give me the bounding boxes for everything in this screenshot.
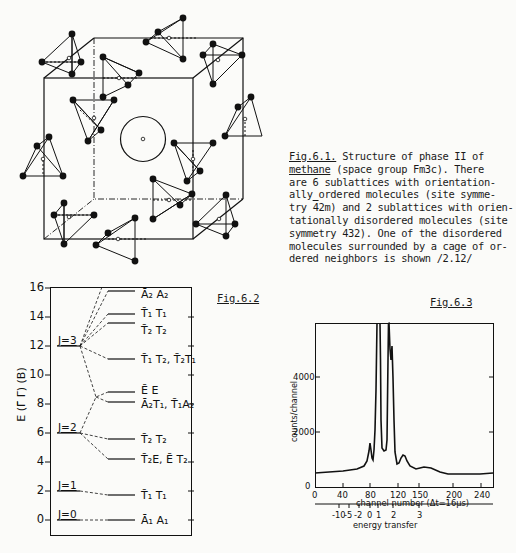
tetrahedron-6 — [23, 137, 63, 176]
spectrum-curve — [315, 323, 493, 474]
tetrahedron-12 — [196, 195, 235, 236]
fig63-energy-axis-label: energy transfer — [353, 520, 417, 530]
tetrahedron-5 — [73, 100, 114, 141]
tetrahedron-4 — [103, 57, 139, 97]
tetrahedron-10 — [54, 203, 94, 244]
fig63-ylabel: counts/channel — [290, 372, 299, 452]
hydrogen-atoms — [20, 15, 255, 265]
tetrahedron-1 — [42, 34, 81, 74]
fig63-xlabel-visible: channel number (Δt=16µs) — [356, 498, 469, 508]
cube-back-edges — [94, 38, 243, 199]
fig62-level-diagram — [45, 287, 194, 536]
ordered-molecules — [23, 18, 262, 261]
tetrahedron-3 — [203, 44, 242, 84]
fig61-label: Fig.6.1. — [289, 150, 336, 162]
fig62-label: Fig.6.2 — [217, 292, 259, 304]
fig62-ylabel: E (Γ̄ Γ) (B) — [15, 350, 28, 440]
fig61-structure-drawing — [0, 0, 516, 553]
fig61-caption: Fig.6.1. Structure of phase II of methan… — [289, 150, 516, 265]
disordered-molecule-sphere — [121, 117, 166, 162]
fig63-spectrum — [315, 323, 494, 508]
fig63-label: Fig.6.3 — [430, 296, 472, 308]
